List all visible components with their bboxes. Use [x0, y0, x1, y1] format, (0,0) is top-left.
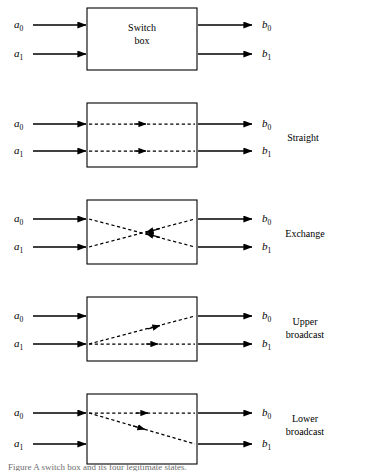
- mode-label-straight: Straight: [287, 132, 319, 143]
- mode-label-upper-broadcast-line2: broadcast: [286, 329, 325, 340]
- label-a1: a1: [14, 144, 24, 159]
- switch-box-diagram: Switch box a0 a1 b0 b1 a0 a1 b0 b: [0, 0, 365, 471]
- label-b1: b1: [262, 337, 272, 352]
- label-a1: a1: [14, 337, 24, 352]
- upper-broadcast-box-rect: [87, 297, 197, 361]
- mode-label-lower-broadcast-line2: broadcast: [286, 426, 325, 437]
- label-a1: a1: [14, 437, 24, 452]
- label-b1: b1: [262, 240, 272, 255]
- figure-container: Switch box a0 a1 b0 b1 a0 a1 b0 b: [0, 0, 365, 471]
- label-b0: b0: [262, 212, 272, 227]
- label-a0: a0: [14, 18, 24, 33]
- straight-box-rect: [87, 103, 197, 167]
- panel-lower-broadcast: a0 a1 b0 b1 Lower broadcast: [14, 394, 324, 464]
- label-a1: a1: [14, 240, 24, 255]
- panel-switch-box: Switch box a0 a1 b0 b1: [14, 8, 272, 70]
- mode-label-lower-broadcast-line1: Lower: [292, 413, 319, 424]
- label-b0: b0: [262, 406, 272, 421]
- label-a0: a0: [14, 117, 24, 132]
- mode-label-upper-broadcast-line1: Upper: [293, 316, 319, 327]
- mode-label-exchange: Exchange: [285, 228, 325, 239]
- panel-exchange: a0 a1 b0 b1 Exchange: [14, 200, 325, 264]
- label-b1: b1: [262, 144, 272, 159]
- label-b0: b0: [262, 117, 272, 132]
- figure-caption: Figure A switch box and its four legitim…: [8, 462, 187, 471]
- panel-upper-broadcast: a0 a1 b0 b1 Upper broadcast: [14, 297, 324, 361]
- label-b0: b0: [262, 18, 272, 33]
- label-b0: b0: [262, 309, 272, 324]
- label-a0: a0: [14, 212, 24, 227]
- panel-straight: a0 a1 b0 b1 Straight: [14, 103, 319, 167]
- label-a1: a1: [14, 47, 24, 62]
- label-a0: a0: [14, 406, 24, 421]
- switch-box-label-line1: Switch: [128, 22, 156, 33]
- switch-box-label-line2: box: [135, 35, 150, 46]
- label-b1: b1: [262, 47, 272, 62]
- label-a0: a0: [14, 309, 24, 324]
- label-b1: b1: [262, 437, 272, 452]
- exchange-box-rect: [87, 200, 197, 264]
